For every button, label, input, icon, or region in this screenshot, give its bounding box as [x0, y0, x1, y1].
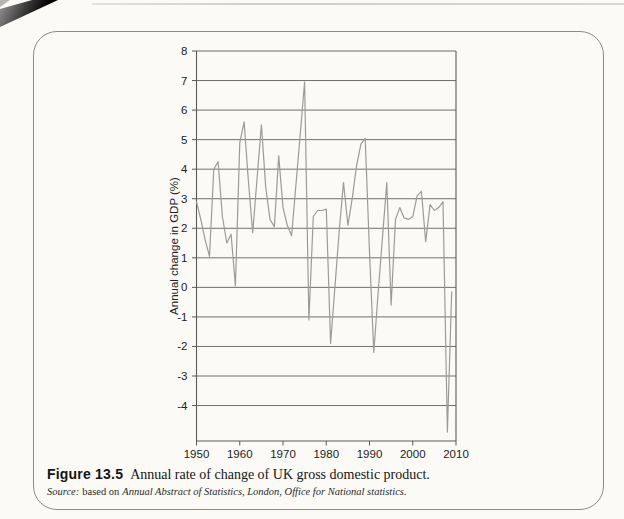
x-tick-label: 1990: [357, 448, 383, 460]
x-tick-label: 1980: [313, 448, 339, 460]
scanned-book-page: { "figure": { "caption_label": "Figure 1…: [0, 0, 624, 519]
y-tick-label: 4: [181, 163, 188, 175]
y-tick-label: 0: [181, 281, 187, 293]
y-tick-label: 6: [181, 104, 187, 116]
x-tick-label: 2000: [400, 448, 426, 460]
y-tick-label: -2: [177, 340, 187, 352]
gdp-series-line: [197, 82, 452, 432]
y-tick-label: 7: [181, 75, 187, 87]
figure-caption-text: Annual rate of change of UK gross domest…: [130, 467, 430, 482]
gdp-line-chart: 876543210-1-2-3-419501960197019801990200…: [0, 0, 624, 470]
y-axis-title: Annual change in GDP (%): [168, 177, 180, 315]
y-tick-label: 3: [181, 193, 187, 205]
source-citation: Annual Abstract of Statistics, London, O…: [122, 486, 406, 497]
x-tick-label: 1950: [184, 448, 210, 460]
y-tick-label: -3: [177, 370, 187, 382]
figure-source: Source:based onAnnual Abstract of Statis…: [47, 486, 587, 498]
y-tick-label: 2: [181, 222, 187, 234]
y-tick-label: 5: [181, 134, 187, 146]
y-tick-label: 8: [181, 45, 187, 57]
figure-caption: Figure 13.5Annual rate of change of UK g…: [47, 466, 587, 483]
source-based-on: based on: [82, 486, 119, 497]
figure-caption-label: Figure 13.5: [47, 466, 123, 482]
y-tick-label: 1: [181, 252, 187, 264]
x-tick-label: 2010: [443, 448, 469, 460]
x-tick-label: 1970: [270, 448, 296, 460]
y-tick-label: -4: [177, 400, 188, 412]
source-label: Source:: [47, 486, 79, 497]
x-tick-label: 1960: [227, 448, 253, 460]
